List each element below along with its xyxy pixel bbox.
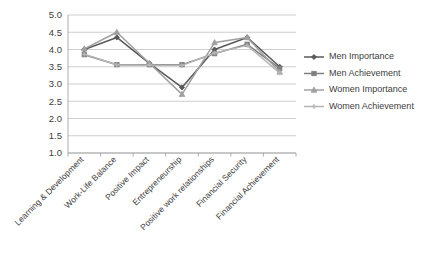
legend-label: Women Achievement <box>329 101 414 111</box>
data-point-marker <box>312 71 316 75</box>
x-axis-labels: Learning & DevelopmentWork-Life BalanceP… <box>12 154 281 232</box>
chart-canvas: 5.04.54.03.53.02.52.01.51.0Learning & De… <box>0 0 434 256</box>
y-axis-tick-label: 4.5 <box>49 27 62 38</box>
y-axis-tick-label: 3.0 <box>49 78 62 89</box>
data-point-marker <box>311 54 316 59</box>
legend-item-4[interactable]: Women Achievement <box>304 101 414 111</box>
y-axis-tick-label: 1.5 <box>49 130 62 141</box>
y-axis-tick-label: 3.5 <box>49 61 62 72</box>
data-point-marker <box>114 29 120 34</box>
data-point-marker <box>312 104 316 108</box>
legend-label: Men Achievement <box>329 68 401 78</box>
grid-group: 5.04.54.03.53.02.52.01.51.0 <box>49 9 296 158</box>
y-axis-tick-label: 4.0 <box>49 44 62 55</box>
line-chart: 5.04.54.03.53.02.52.01.51.0Learning & De… <box>0 0 434 256</box>
x-axis-tick-label: Financial Achievement <box>214 154 282 222</box>
y-axis-tick-label: 1.0 <box>49 147 62 158</box>
legend-item-2[interactable]: Men Achievement <box>304 68 401 78</box>
legend: Men ImportanceMen AchievementWomen Impor… <box>304 51 414 111</box>
y-axis-tick-label: 2.5 <box>49 96 62 107</box>
y-axis-tick-label: 5.0 <box>49 9 62 20</box>
legend-label: Men Importance <box>329 51 394 61</box>
legend-item-1[interactable]: Men Importance <box>304 51 394 61</box>
legend-label: Women Importance <box>329 84 407 94</box>
y-axis-tick-label: 2.0 <box>49 113 62 124</box>
legend-item-3[interactable]: Women Importance <box>304 84 407 94</box>
